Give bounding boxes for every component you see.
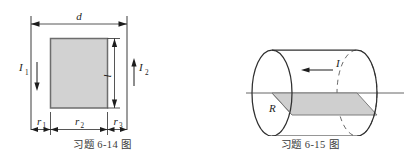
label-l: l (101, 74, 113, 77)
label-r3: r (114, 115, 119, 127)
label-I1: I (18, 61, 24, 73)
label-d: d (76, 10, 82, 22)
label-R: R (268, 102, 276, 114)
current-left-group: I 1 (18, 61, 40, 91)
r2-arrow-left (51, 127, 59, 132)
label-l-group: l (101, 74, 113, 77)
d-arrow-left (31, 21, 40, 26)
l-arrow-top (112, 39, 117, 48)
current-axial-group: I (301, 57, 341, 73)
label-r1: r (37, 115, 42, 127)
figure-6-14-caption: 习题 6-14 图 (0, 136, 205, 151)
figure-sheet: d l I 1 I 2 (0, 0, 415, 161)
current-right-group: I 2 (131, 58, 149, 86)
I2-arrow-head (131, 58, 136, 67)
label-I: I (335, 57, 341, 69)
d-arrow-right (119, 21, 128, 26)
rectangular-loop-face (51, 39, 108, 109)
figure-6-15: R I 习题 6-15 图 (205, 0, 415, 161)
r1-arrow-left (31, 127, 38, 132)
figure-6-14: d l I 1 I 2 (0, 0, 205, 161)
label-r3-subscript: 3 (119, 122, 123, 130)
figure-6-15-drawing: R I (205, 0, 415, 136)
label-r1-subscript: 1 (42, 122, 46, 130)
figure-6-15-caption: 习题 6-15 图 (205, 136, 415, 151)
I1-arrow-head (34, 83, 39, 92)
r2-arrow-right (100, 127, 108, 132)
l-arrow-bottom (112, 100, 117, 109)
figure-6-14-drawing: d l I 1 I 2 (0, 0, 205, 136)
r3-arrow-left (108, 127, 115, 132)
label-r2-subscript: 2 (80, 122, 84, 130)
label-I1-subscript: 1 (25, 69, 29, 77)
rectangular-cross-section-face (272, 93, 377, 115)
label-I2: I (138, 61, 144, 73)
I-arrow-head (301, 67, 310, 72)
label-I2-subscript: 2 (145, 69, 149, 77)
label-r2: r (75, 115, 80, 127)
